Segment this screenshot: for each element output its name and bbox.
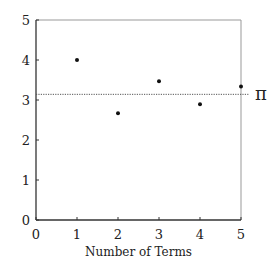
x-tick-label: 2	[114, 227, 122, 242]
x-axis-label: Number of Terms	[85, 245, 192, 259]
x-tick-label: 0	[32, 227, 40, 242]
y-tick-label: 4	[22, 53, 30, 68]
y-tick-label: 3	[22, 93, 30, 108]
scatter-chart: 012345012345Number of Termsπ	[0, 0, 280, 267]
y-tick-label: 1	[22, 173, 30, 188]
pi-label: π	[255, 83, 267, 104]
data-point	[75, 58, 79, 62]
y-tick-label: 2	[22, 133, 30, 148]
data-point	[157, 79, 161, 83]
y-tick-label: 0	[22, 213, 30, 228]
x-tick-label: 3	[155, 227, 163, 242]
x-tick-label: 5	[237, 227, 245, 242]
x-tick-label: 4	[196, 227, 204, 242]
x-tick-label: 1	[73, 227, 81, 242]
data-point	[239, 84, 243, 88]
data-point	[116, 111, 120, 115]
y-tick-label: 5	[22, 13, 30, 28]
data-point	[198, 102, 202, 106]
